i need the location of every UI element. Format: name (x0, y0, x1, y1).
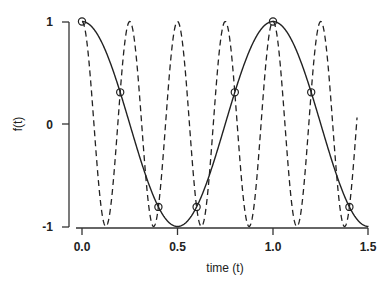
x-axis-label: time (t) (206, 261, 243, 275)
solid-curve-low-frequency (82, 22, 369, 227)
x-axis: 0.0 0.5 1.0 1.5 time (t) (74, 228, 377, 275)
y-tick-label: 0 (46, 118, 53, 132)
chart: 1 0 -1 f(t) 0.0 0.5 1.0 1.5 time (t) (0, 0, 390, 284)
y-tick-label: 1 (46, 15, 53, 29)
sample-markers (78, 18, 353, 211)
y-axis-label: f(t) (11, 117, 25, 132)
y-tick-label: -1 (42, 220, 53, 234)
x-tick-label: 1.0 (265, 240, 282, 254)
x-tick-label: 0.0 (74, 240, 91, 254)
dashed-curve-high-frequency (82, 22, 357, 227)
x-tick-label: 1.5 (360, 240, 377, 254)
x-tick-label: 0.5 (169, 240, 186, 254)
y-axis: 1 0 -1 f(t) (11, 15, 69, 234)
